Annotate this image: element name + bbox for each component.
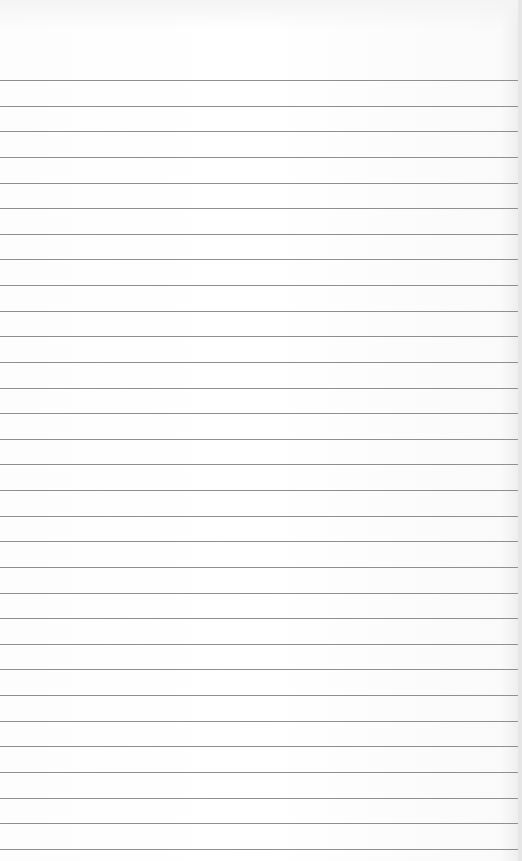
ruled-line bbox=[0, 721, 518, 722]
paper-right-edge bbox=[518, 0, 522, 861]
lined-paper-sheet bbox=[0, 0, 522, 861]
ruled-line bbox=[0, 746, 518, 747]
ruled-line bbox=[0, 157, 518, 158]
ruled-line bbox=[0, 183, 518, 184]
ruled-line bbox=[0, 516, 518, 517]
ruled-line bbox=[0, 669, 518, 670]
ruled-line bbox=[0, 541, 518, 542]
ruled-line bbox=[0, 106, 518, 107]
ruled-line bbox=[0, 695, 518, 696]
ruled-line bbox=[0, 259, 518, 260]
ruled-line bbox=[0, 798, 518, 799]
ruled-line bbox=[0, 362, 518, 363]
ruled-line bbox=[0, 772, 518, 773]
ruled-line bbox=[0, 234, 518, 235]
ruled-line bbox=[0, 567, 518, 568]
ruled-line bbox=[0, 413, 518, 414]
ruled-line bbox=[0, 80, 518, 81]
ruled-line bbox=[0, 311, 518, 312]
ruled-line bbox=[0, 336, 518, 337]
ruled-line bbox=[0, 849, 518, 850]
ruled-line bbox=[0, 644, 518, 645]
ruled-line bbox=[0, 618, 518, 619]
ruled-line bbox=[0, 208, 518, 209]
ruled-line bbox=[0, 490, 518, 491]
ruled-line bbox=[0, 464, 518, 465]
ruled-line bbox=[0, 823, 518, 824]
ruled-line bbox=[0, 593, 518, 594]
ruled-line bbox=[0, 439, 518, 440]
ruled-line bbox=[0, 388, 518, 389]
ruled-line bbox=[0, 285, 518, 286]
ruled-line bbox=[0, 131, 518, 132]
top-shadow bbox=[0, 0, 522, 30]
